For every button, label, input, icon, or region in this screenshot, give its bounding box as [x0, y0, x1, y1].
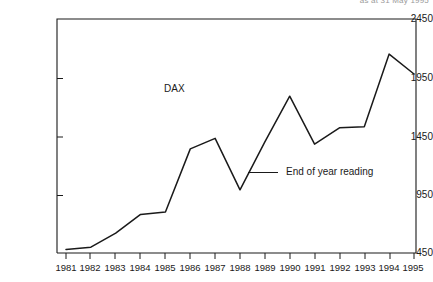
- y-tick-label-2450: 2450: [381, 14, 433, 24]
- y-tick-label-450: 450: [381, 248, 433, 258]
- series-line-end-of-year-reading: [66, 54, 414, 249]
- plot-frame: [57, 19, 416, 253]
- x-axis-ticks: [66, 253, 414, 259]
- legend-line-swatch: [248, 172, 278, 173]
- y-tick-label-950: 950: [381, 190, 433, 200]
- x-tick-label-1995: 1995: [393, 263, 433, 273]
- dax-index-line-chart: as at 31 May 1995: [0, 0, 433, 282]
- plot-area: 450 950 1450 1950 2450 1981 1982 1983 19…: [0, 0, 433, 282]
- chart-canvas: [0, 0, 433, 282]
- chart-legend: End of year reading: [248, 167, 373, 177]
- y-tick-label-1450: 1450: [381, 132, 433, 142]
- series-annotation-dax: DAX: [164, 83, 185, 94]
- y-axis-ticks: [57, 79, 63, 196]
- legend-entry-label: End of year reading: [286, 167, 373, 177]
- y-tick-label-1950: 1950: [381, 73, 433, 83]
